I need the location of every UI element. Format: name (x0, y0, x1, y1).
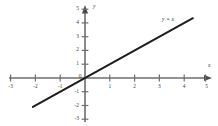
origin-label: 0 (76, 74, 84, 79)
x-tick-label-3: 3 (158, 84, 161, 89)
y-tick-label-4: 4 (70, 20, 79, 25)
x-tick-label-1: 1 (108, 84, 111, 89)
x-tick-label--3: -3 (8, 84, 13, 89)
x-tick-label--1: -1 (58, 84, 63, 89)
y-tick-label-1: 1 (70, 61, 79, 66)
graph-figure: -3 -2 -1 1 2 3 4 5 0 5 4 3 2 1 -1 -2 -3 … (0, 0, 218, 126)
x-tick-label--2: -2 (33, 84, 38, 89)
y-tick-label-2: 2 (70, 48, 79, 53)
y-tick-label--3: -3 (68, 116, 79, 121)
x-axis-label: x (208, 63, 210, 69)
line-equation-label: y = x (162, 17, 174, 22)
x-tick-label-5: 5 (205, 84, 208, 89)
x-tick-label-2: 2 (133, 84, 136, 89)
y-tick-label-5: 5 (70, 6, 79, 11)
x-axis (9, 75, 212, 82)
coordinate-plane-svg (0, 0, 218, 126)
y-axis (82, 5, 89, 122)
y-tick-label--1: -1 (68, 89, 79, 94)
x-tick-label-4: 4 (183, 84, 186, 89)
line-y-equals-x (33, 18, 193, 107)
y-axis-label: y (93, 4, 95, 10)
y-tick-label--2: -2 (68, 103, 79, 108)
y-tick-label-3: 3 (70, 34, 79, 39)
